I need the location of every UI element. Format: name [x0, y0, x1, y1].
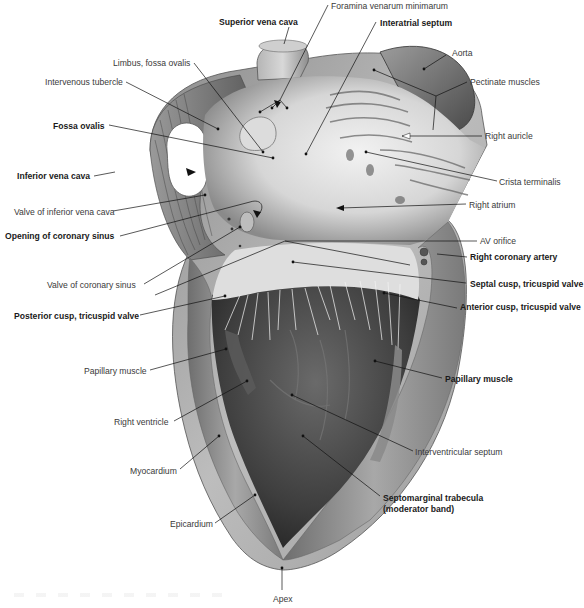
label-apex: Apex	[273, 594, 293, 604]
label-aorta: Aorta	[452, 48, 473, 58]
label-crista-terminalis: Crista terminalis	[499, 177, 561, 187]
label-fossa-ovalis: Fossa ovalis	[53, 121, 105, 131]
coronary-sinus-opening	[240, 212, 254, 232]
label-epicardium: Epicardium	[170, 519, 213, 529]
label-interventricular-septum: Interventricular septum	[415, 447, 502, 457]
label-septomarginal-trabecula: Septomarginal trabecula	[383, 493, 483, 503]
label-right-coronary-artery: Right coronary artery	[470, 252, 557, 262]
label-papillary-muscle-right: Papillary muscle	[445, 374, 513, 384]
faint-caption-artifact	[14, 593, 234, 597]
label-right-atrium: Right atrium	[469, 200, 515, 210]
label-moderator-band: (moderator band)	[383, 504, 454, 514]
label-inferior-vena-cava: Inferior vena cava	[17, 171, 90, 181]
label-av-orifice: AV orifice	[480, 236, 516, 246]
label-interatrial-septum: Interatrial septum	[380, 18, 452, 28]
label-opening-of-coronary-sinus: Opening of coronary sinus	[5, 231, 114, 241]
label-intervenous-tubercle: Intervenous tubercle	[45, 77, 123, 87]
label-foramina-venarum-minimarum: Foramina venarum minimarum	[331, 1, 448, 11]
label-valve-of-inferior-vena-cava: Valve of inferior vena cava	[14, 207, 115, 217]
label-papillary-muscle-left: Papillary muscle	[84, 366, 147, 376]
label-posterior-cusp-tricuspid-valve: Posterior cusp, tricuspid valve	[14, 311, 139, 321]
label-right-ventricle: Right ventricle	[114, 417, 168, 427]
label-septal-cusp-tricuspid-valve: Septal cusp, tricuspid valve	[470, 279, 583, 289]
label-anterior-cusp-tricuspid-valve: Anterior cusp, tricuspid valve	[460, 302, 581, 312]
label-myocardium: Myocardium	[130, 466, 177, 476]
label-right-auricle: Right auricle	[485, 131, 533, 141]
label-pectinate-muscles: Pectinate muscles	[470, 77, 540, 87]
label-superior-vena-cava: Superior vena cava	[219, 17, 298, 27]
label-limbus-fossa-ovalis: Limbus, fossa ovalis	[113, 58, 190, 68]
label-valve-of-coronary-sinus: Valve of coronary sinus	[47, 280, 136, 290]
ivc-opening	[167, 123, 209, 196]
